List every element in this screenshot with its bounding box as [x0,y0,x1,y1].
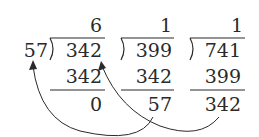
remainder-2: 57 [126,95,172,114]
product-3: 399 [195,67,241,86]
quotient-2: 1 [128,16,172,35]
division-bracket-2 [121,38,124,60]
remainder-3: 342 [195,95,241,114]
product-1: 342 [56,67,102,86]
divisor-57: 57 [14,41,48,60]
dividend-3: 741 [195,41,241,60]
dividend-2: 399 [126,41,172,60]
quotient-1: 6 [60,16,102,35]
division-bracket-1 [50,38,53,60]
quotient-3: 1 [197,16,243,35]
remainder-1: 0 [56,95,102,114]
dividend-1: 342 [56,41,102,60]
division-bracket-3 [190,38,193,60]
product-2: 342 [126,67,172,86]
arrowhead-divisor-icon [29,60,37,70]
